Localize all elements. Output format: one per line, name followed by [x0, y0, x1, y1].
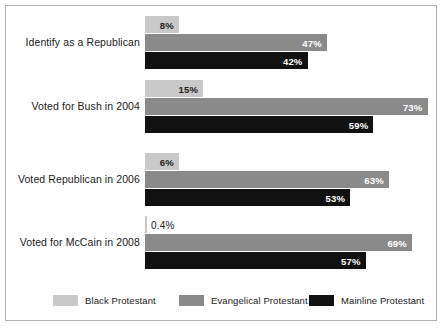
category-label: Identify as a Republican — [6, 36, 140, 48]
legend-item[interactable]: Mainline Protestant — [309, 292, 424, 308]
bar-group: Identify as a Republican8%47%42% — [6, 16, 436, 71]
legend-item[interactable]: Black Protestant — [53, 292, 156, 308]
bar-row: 15% — [145, 80, 436, 97]
bar[interactable]: 42% — [145, 52, 308, 69]
bar[interactable]: 47% — [145, 34, 327, 51]
bar-value-label: 42% — [283, 55, 303, 66]
bar-value-label: 0.4% — [151, 219, 175, 230]
bar-value-label: 8% — [160, 19, 174, 30]
bar-group: Voted for McCain in 20080.4%69%57% — [6, 216, 436, 271]
bar-value-label: 57% — [341, 255, 361, 266]
bar-group: Voted for Bush in 200415%73%59% — [6, 80, 436, 135]
bar-value-label: 73% — [403, 101, 423, 112]
bar-value-label: 63% — [364, 174, 384, 185]
bar-row: 42% — [145, 52, 436, 69]
bar[interactable]: 6% — [145, 153, 179, 170]
bar-row: 6% — [145, 153, 436, 170]
plot-area: Identify as a Republican8%47%42%Voted fo… — [6, 6, 436, 320]
bar[interactable]: 15% — [145, 80, 203, 97]
bar-value-label: 69% — [387, 237, 407, 248]
bar-row: 57% — [145, 252, 436, 269]
bar-row: 8% — [145, 16, 436, 33]
legend-swatch-icon — [179, 295, 204, 306]
category-label: Voted Republican in 2006 — [6, 173, 140, 185]
category-label: Voted for McCain in 2008 — [6, 236, 140, 248]
bar[interactable]: 53% — [145, 189, 350, 206]
bar[interactable]: 69% — [145, 234, 412, 251]
category-label: Voted for Bush in 2004 — [6, 100, 140, 112]
bar[interactable]: 8% — [145, 16, 179, 33]
legend-label: Mainline Protestant — [341, 295, 424, 306]
bar[interactable]: 59% — [145, 116, 373, 133]
bar-group: Voted Republican in 20066%63%53% — [6, 153, 436, 208]
bar-row: 0.4% — [145, 216, 436, 233]
legend-swatch-icon — [309, 295, 334, 306]
legend-swatch-icon — [53, 295, 78, 306]
legend-label: Evangelical Protestant — [211, 295, 308, 306]
bar[interactable] — [145, 216, 147, 233]
bar-row: 47% — [145, 34, 436, 51]
bar-row: 59% — [145, 116, 436, 133]
legend-item[interactable]: Evangelical Protestant — [179, 292, 308, 308]
bar-value-label: 6% — [160, 156, 174, 167]
bar-row: 63% — [145, 171, 436, 188]
bar-row: 53% — [145, 189, 436, 206]
bar-value-label: 47% — [302, 37, 322, 48]
bar-row: 73% — [145, 98, 436, 115]
bar-value-label: 15% — [178, 83, 198, 94]
bar-value-label: 59% — [349, 119, 369, 130]
chart-frame: Identify as a Republican8%47%42%Voted fo… — [5, 5, 437, 321]
bar[interactable]: 57% — [145, 252, 366, 269]
bar[interactable]: 63% — [145, 171, 389, 188]
bar[interactable]: 73% — [145, 98, 428, 115]
bar-value-label: 53% — [325, 192, 345, 203]
bar-row: 69% — [145, 234, 436, 251]
legend-label: Black Protestant — [85, 295, 156, 306]
chart-legend: Black ProtestantEvangelical ProtestantMa… — [6, 292, 436, 312]
